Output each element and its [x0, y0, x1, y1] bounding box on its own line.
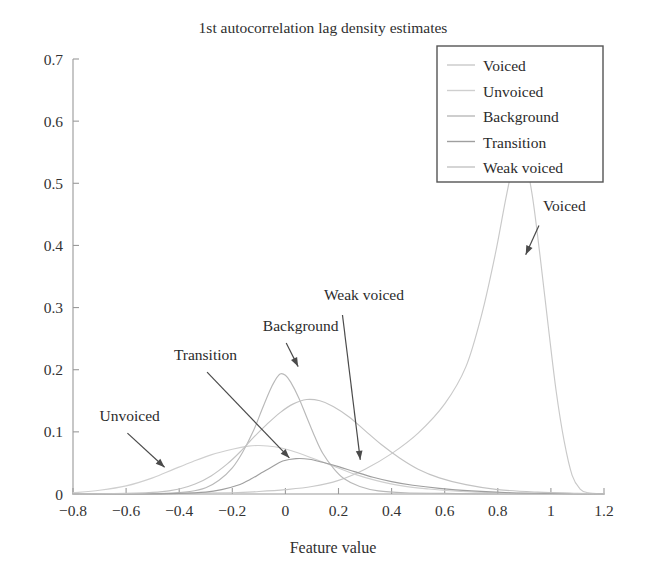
x-axis-label: Feature value: [290, 539, 377, 556]
x-tick-label: 1.2: [594, 502, 613, 519]
x-tick-label: 1: [547, 502, 555, 519]
x-tick-label: 0.2: [329, 502, 348, 519]
annotation-arrow: [342, 315, 360, 460]
chart-title-group: 1st autocorrelation lag density estimate…: [199, 19, 448, 36]
x-tick-label: 0.8: [488, 502, 508, 519]
x-tick-label: −0.6: [112, 502, 140, 519]
density-curve-unvoiced: [73, 445, 604, 494]
chart-page: 1st autocorrelation lag density estimate…: [0, 0, 646, 572]
legend[interactable]: VoicedUnvoicedBackgroundTransitionWeak v…: [437, 46, 603, 182]
legend-label-background: Background: [483, 108, 559, 125]
x-tick-label: 0.6: [435, 502, 455, 519]
annotation-label-unvoiced: Unvoiced: [100, 407, 161, 424]
annotation-label-background: Background: [263, 317, 339, 334]
annotation-label-weak-voiced: Weak voiced: [324, 286, 404, 303]
x-tick-label: −0.8: [59, 502, 87, 519]
annotation-label-voiced: Voiced: [543, 197, 586, 214]
y-tick-label: 0.6: [44, 113, 64, 130]
x-tick-label: 0: [282, 502, 290, 519]
x-tick-label: −0.4: [165, 502, 193, 519]
y-tick-label: 0: [55, 486, 63, 503]
legend-label-weak-voiced: Weak voiced: [483, 159, 563, 176]
curve-annotations: VoicedUnvoicedTransitionBackgroundWeak v…: [100, 197, 586, 467]
annotation-arrowhead: [526, 245, 533, 255]
legend-label-unvoiced: Unvoiced: [483, 83, 544, 100]
annotation-arrowhead: [356, 451, 363, 460]
y-tick-label: 0.2: [44, 361, 63, 378]
y-tick-label: 0.7: [44, 51, 64, 68]
y-tick-label: 0.1: [44, 423, 63, 440]
density-curve-background: [73, 374, 604, 494]
annotation-label-transition: Transition: [174, 346, 237, 363]
y-tick-label: 0.4: [44, 237, 64, 254]
chart-title: 1st autocorrelation lag density estimate…: [199, 19, 448, 36]
legend-label-voiced: Voiced: [483, 57, 526, 74]
y-axis-ticks: 00.10.20.30.40.50.60.7: [44, 51, 79, 503]
legend-label-transition: Transition: [483, 134, 546, 151]
x-axis-label-group: Feature value: [290, 539, 377, 556]
y-tick-label: 0.3: [44, 299, 64, 316]
density-plot-figure: 1st autocorrelation lag density estimate…: [0, 0, 646, 572]
x-tick-label: −0.2: [218, 502, 246, 519]
y-tick-label: 0.5: [44, 175, 64, 192]
x-tick-label: 0.4: [382, 502, 402, 519]
annotation-arrowhead: [291, 357, 298, 367]
